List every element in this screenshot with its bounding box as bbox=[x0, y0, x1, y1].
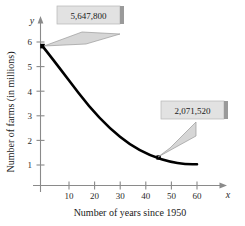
y-tick-group: 1 2 3 4 5 6 bbox=[28, 37, 45, 170]
y-axis-arrowhead bbox=[38, 16, 44, 24]
callout-leader-5647800 bbox=[44, 32, 120, 46]
farms-line-chart-figure: 1 2 3 4 5 6 10 20 30 40 50 60 y x Number… bbox=[0, 0, 245, 226]
x-tick-label-30: 30 bbox=[116, 191, 126, 201]
x-tick-label-60: 60 bbox=[193, 191, 203, 201]
chart-canvas: 1 2 3 4 5 6 10 20 30 40 50 60 y x Number… bbox=[0, 0, 245, 226]
x-tick-label-10: 10 bbox=[65, 191, 75, 201]
y-tick-label-3: 3 bbox=[28, 111, 33, 121]
callout-5647800: 5,647,800 bbox=[44, 6, 124, 46]
y-tick-label-4: 4 bbox=[28, 87, 33, 97]
callout-label-2071520: 2,071,520 bbox=[175, 106, 212, 116]
y-tick-label-1: 1 bbox=[28, 160, 33, 170]
callout-label-5647800: 5,647,800 bbox=[71, 11, 108, 21]
y-tick-label-2: 2 bbox=[28, 136, 33, 146]
callout-shadow-2071520 bbox=[224, 101, 228, 119]
y-tick-label-5: 5 bbox=[28, 62, 33, 72]
x-tick-label-20: 20 bbox=[90, 191, 100, 201]
x-tick-label-50: 50 bbox=[167, 191, 177, 201]
x-axis-title: Number of years since 1950 bbox=[74, 207, 187, 218]
x-tick-group: 10 20 30 40 50 60 bbox=[65, 182, 203, 202]
x-tick-label-40: 40 bbox=[141, 191, 151, 201]
y-axis-title: Number of farms (in millions) bbox=[5, 51, 17, 172]
callout-2071520: 2,071,520 bbox=[158, 101, 228, 157]
y-tick-label-6: 6 bbox=[28, 37, 33, 47]
callout-shadow-5647800 bbox=[120, 6, 124, 24]
callout-leader-2071520 bbox=[158, 122, 196, 157]
x-axis-variable-label: x bbox=[225, 189, 231, 200]
x-axis-arrowhead bbox=[220, 183, 228, 189]
y-axis-variable-label: y bbox=[29, 15, 35, 26]
